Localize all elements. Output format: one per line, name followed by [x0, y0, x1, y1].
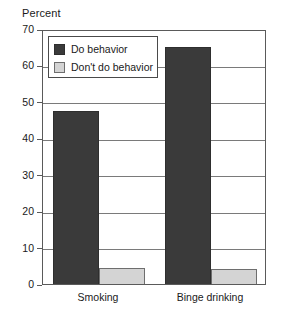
legend-item-do-behavior: Do behavior: [54, 40, 153, 58]
y-axis-tick-label: 10: [2, 243, 34, 254]
legend-label: Don't do behavior: [71, 61, 153, 73]
bar-dont-do-behavior: [211, 269, 257, 285]
y-axis-tick-label: 60: [2, 60, 34, 71]
y-axis-title: Percent: [22, 7, 61, 20]
bar-dont-do-behavior: [99, 268, 145, 285]
bar-do-behavior: [165, 47, 211, 285]
y-axis-tick-label: 20: [2, 206, 34, 217]
legend-swatch-icon-dark: [54, 44, 65, 55]
y-axis-tick-label: 50: [2, 97, 34, 108]
x-axis-category-label: Binge drinking: [154, 291, 266, 303]
legend-label: Do behavior: [71, 43, 128, 55]
y-axis-tick-label: 70: [2, 24, 34, 35]
legend-swatch-icon-light: [54, 62, 65, 73]
bar-chart: Percent 010203040506070 SmokingBinge dri…: [0, 0, 284, 317]
y-axis-tick-label: 30: [2, 170, 34, 181]
legend-item-dont-do-behavior: Don't do behavior: [54, 58, 153, 76]
legend: Do behavior Don't do behavior: [48, 36, 158, 78]
gridline: [43, 103, 265, 104]
y-axis-tick-label: 0: [2, 279, 34, 290]
x-axis-category-label: Smoking: [42, 291, 154, 303]
bar-do-behavior: [53, 111, 99, 285]
y-axis-tick-label: 40: [2, 133, 34, 144]
